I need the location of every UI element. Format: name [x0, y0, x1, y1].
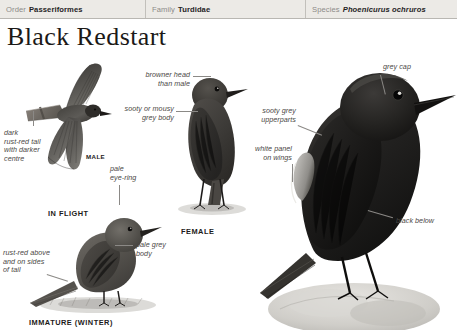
- taxonomy-order-name: Passeriformes: [29, 5, 83, 14]
- leader-line-pale-grey-body: [115, 245, 133, 246]
- taxonomy-divider: [145, 0, 146, 18]
- leader-line-white-panel: [292, 164, 293, 182]
- taxonomy-family-name: Turdidae: [178, 5, 210, 14]
- bird-illustration-male: [258, 47, 457, 330]
- taxonomy-species: Species Phoenicurus ochruros: [312, 0, 426, 18]
- annotation-sooty-grey-upperparts: sooty grey upperparts: [228, 107, 296, 124]
- caption-immature-winter: IMMATURE (WINTER): [29, 318, 113, 327]
- annotation-pale-grey-body: pale grey body: [136, 241, 198, 258]
- annotation-black-below: black below: [396, 217, 452, 226]
- annotation-rust-red-above: rust-red above and on sides of tail: [3, 249, 73, 275]
- caption-female: FEMALE: [181, 227, 214, 236]
- male-head: [340, 73, 456, 141]
- caption-male: MALE: [86, 153, 105, 160]
- bird-illustration-female: [168, 69, 258, 219]
- annotation-dark-rust-red-tail: dark rust-red tail with darker centre: [4, 129, 76, 163]
- annotation-white-panel-on-wings: white panel on wings: [226, 145, 292, 162]
- leader-line-sooty-mousy: [176, 111, 198, 112]
- annotation-grey-cap: grey cap: [383, 63, 443, 72]
- taxonomy-family: Family Turdidae: [152, 0, 210, 18]
- taxonomy-order-rank: Order: [6, 5, 26, 14]
- illustration-plate: dark rust-red tail with darker centre MA…: [0, 19, 457, 330]
- leader-line-browner-head: [193, 76, 211, 77]
- taxonomy-divider: [305, 0, 306, 18]
- leader-line-tail: [33, 111, 34, 126]
- male-perch-rock: [268, 283, 440, 330]
- taxonomy-order: Order Passeriformes: [6, 0, 83, 18]
- leader-line-eye-ring: [119, 185, 120, 205]
- taxonomy-species-name: Phoenicurus ochruros: [343, 5, 426, 14]
- flight-upper-wing: [66, 63, 102, 109]
- annotation-browner-head: browner head than male: [122, 71, 190, 88]
- taxonomy-family-rank: Family: [152, 5, 175, 14]
- annotation-pale-eye-ring: pale eye-ring: [110, 165, 170, 182]
- taxonomy-species-rank: Species: [312, 5, 340, 14]
- field-guide-page: Order Passeriformes Family Turdidae Spec…: [0, 0, 457, 330]
- annotation-sooty-or-mousy: sooty or mousy grey body: [104, 105, 174, 122]
